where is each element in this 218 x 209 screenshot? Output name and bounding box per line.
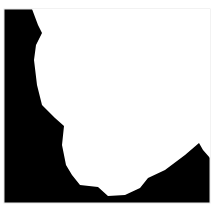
- silhouette-mask: [0, 0, 218, 209]
- mask-image-canvas: [0, 0, 218, 209]
